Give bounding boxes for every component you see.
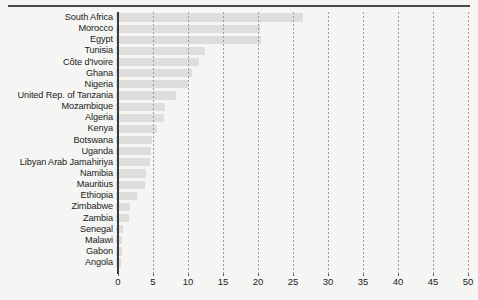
bar-row: Ethiopia (0, 190, 478, 201)
bar-track (116, 45, 478, 56)
bar-track (116, 79, 478, 90)
category-label: Gabon (0, 246, 116, 257)
bar-row: Mauritius (0, 179, 478, 190)
y-axis-line (117, 12, 119, 274)
bar[interactable] (116, 58, 199, 66)
bar[interactable] (116, 181, 145, 189)
category-label: Zimbabwe (0, 201, 116, 212)
category-label: Egypt (0, 34, 116, 45)
bar[interactable] (116, 114, 164, 122)
gridline (468, 12, 469, 274)
bar[interactable] (116, 136, 152, 144)
category-label: Namibia (0, 168, 116, 179)
bar-track (116, 201, 478, 212)
bar-row: Malawi (0, 235, 478, 246)
bar-row: Ghana (0, 68, 478, 79)
tick-label: 5 (150, 276, 155, 288)
category-label: Tunisia (0, 45, 116, 56)
bar-row: Namibia (0, 168, 478, 179)
tick-label: 10 (183, 276, 194, 288)
bar-track (116, 190, 478, 201)
tick-label: 25 (288, 276, 299, 288)
bar-row: Botswana (0, 135, 478, 146)
category-label: Morocco (0, 23, 116, 34)
bar-track (116, 246, 478, 257)
bar-row: Tunisia (0, 45, 478, 56)
bar-row: Mozambique (0, 101, 478, 112)
tick-label: 15 (218, 276, 229, 288)
tick-label: 50 (463, 276, 474, 288)
gridline (328, 12, 329, 274)
bar-row: South Africa (0, 12, 478, 23)
category-label: Botswana (0, 135, 116, 146)
tick-label: 0 (115, 276, 120, 288)
bar-track (116, 235, 478, 246)
gridline (363, 12, 364, 274)
bar-track (116, 146, 478, 157)
category-label: Senegal (0, 224, 116, 235)
bar-track (116, 57, 478, 68)
category-label: Zambia (0, 213, 116, 224)
bar-row: Libyan Arab Jamahiriya (0, 157, 478, 168)
bar-track (116, 12, 478, 23)
category-label: Uganda (0, 146, 116, 157)
gridline (293, 12, 294, 274)
bar[interactable] (116, 103, 165, 111)
bar-row: Senegal (0, 224, 478, 235)
bar-track (116, 123, 478, 134)
bar-track (116, 34, 478, 45)
bar[interactable] (116, 158, 150, 166)
category-label: Malawi (0, 235, 116, 246)
bar-row: Kenya (0, 123, 478, 134)
bar-track (116, 224, 478, 235)
gridline (258, 12, 259, 274)
bar[interactable] (116, 47, 205, 55)
bar[interactable] (116, 192, 137, 200)
gridline (223, 12, 224, 274)
tick-label: 20 (253, 276, 264, 288)
plot-area: South AfricaMoroccoEgyptTunisiaCôte d'Iv… (0, 12, 478, 274)
gridline (153, 12, 154, 274)
bar-track (116, 213, 478, 224)
bar[interactable] (116, 125, 157, 133)
category-label: Mozambique (0, 101, 116, 112)
category-label: Mauritius (0, 179, 116, 190)
bar-row: Zimbabwe (0, 201, 478, 212)
bar-track (116, 257, 478, 268)
bar-track (116, 90, 478, 101)
category-label: Libyan Arab Jamahiriya (0, 157, 116, 168)
chart-page: South AfricaMoroccoEgyptTunisiaCôte d'Iv… (0, 0, 478, 300)
category-label: Angola (0, 257, 116, 268)
bar-row: Egypt (0, 34, 478, 45)
bar-track (116, 135, 478, 146)
gridline (398, 12, 399, 274)
bar[interactable] (116, 147, 151, 155)
bar-row: Côte d'Ivoire (0, 57, 478, 68)
tick-label: 30 (323, 276, 334, 288)
category-label: South Africa (0, 12, 116, 23)
bar-row: Algeria (0, 112, 478, 123)
bar-track (116, 68, 478, 79)
bar-track (116, 101, 478, 112)
x-axis-tick-labels: 05101520253035404550 (0, 276, 478, 292)
bar[interactable] (116, 169, 146, 177)
bar-row: Uganda (0, 146, 478, 157)
gridline (188, 12, 189, 274)
top-horizontal-rule (8, 5, 470, 7)
bar-track (116, 23, 478, 34)
category-label: United Rep. of Tanzania (0, 90, 116, 101)
bar-row: Angola (0, 257, 478, 268)
bar-track (116, 157, 478, 168)
category-label: Algeria (0, 112, 116, 123)
bar[interactable] (116, 91, 176, 99)
gridline (433, 12, 434, 274)
bar[interactable] (116, 13, 303, 21)
bar-track (116, 112, 478, 123)
bar-row: Zambia (0, 213, 478, 224)
category-label: Côte d'Ivoire (0, 57, 116, 68)
bar-track (116, 168, 478, 179)
bar-row: United Rep. of Tanzania (0, 90, 478, 101)
tick-label: 40 (393, 276, 404, 288)
category-label: Ethiopia (0, 190, 116, 201)
category-label: Nigeria (0, 79, 116, 90)
